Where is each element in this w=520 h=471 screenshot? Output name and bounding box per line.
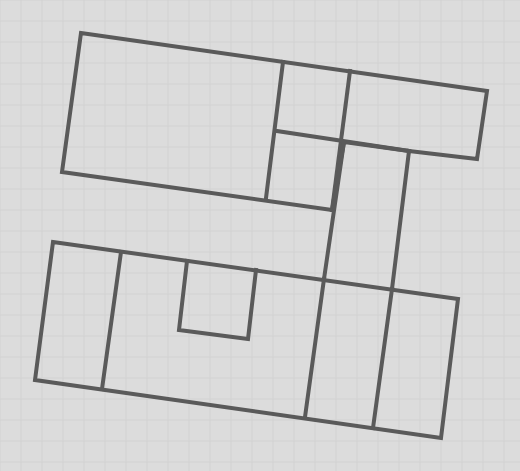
lower-notch — [179, 261, 256, 339]
lower-divider-left — [102, 252, 121, 389]
lower-divider-right — [373, 289, 392, 428]
connector-right-vertical — [392, 151, 409, 289]
lower-divider-mid — [305, 279, 324, 417]
diagram-canvas — [0, 0, 520, 471]
floor-plan — [0, 0, 520, 471]
